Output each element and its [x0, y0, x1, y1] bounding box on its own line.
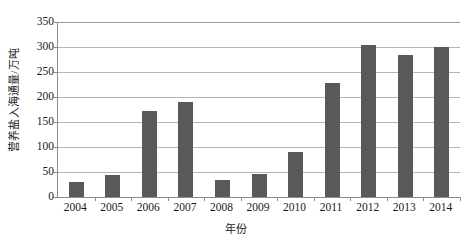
- bar-2013: [398, 55, 413, 197]
- x-tick-label: 2004: [64, 202, 87, 214]
- bars-layer: [58, 22, 460, 197]
- bar-chart-figure: 营养盐入海通量/万吨 050100150200250300350 2004200…: [0, 0, 472, 247]
- plot-area: [57, 22, 460, 198]
- y-tick-label: 250: [37, 66, 54, 78]
- y-tick-mark: [54, 47, 58, 48]
- x-tick-mark: [95, 197, 96, 201]
- x-axis-tick-labels: 2004200520062007200820092010201120122013…: [57, 202, 459, 218]
- y-tick-mark: [54, 72, 58, 73]
- x-tick-label: 2011: [320, 202, 343, 214]
- x-axis-title: 年份: [0, 220, 472, 236]
- x-tick-label: 2010: [283, 202, 306, 214]
- bar-2010: [288, 152, 303, 197]
- y-axis-title-label: 营养盐入海通量/万吨: [5, 48, 21, 152]
- bar-2008: [215, 180, 230, 197]
- bar-2014: [434, 47, 449, 198]
- bar-2009: [252, 174, 267, 198]
- x-tick-label: 2009: [247, 202, 270, 214]
- x-tick-label: 2013: [393, 202, 416, 214]
- x-tick-mark: [241, 197, 242, 201]
- x-tick-label: 2005: [100, 202, 123, 214]
- x-axis-title-label: 年份: [225, 223, 247, 235]
- bar-2011: [325, 83, 340, 197]
- x-tick-label: 2012: [356, 202, 379, 214]
- x-tick-label: 2008: [210, 202, 233, 214]
- y-tick-label: 200: [37, 91, 54, 103]
- x-tick-mark: [423, 197, 424, 201]
- y-tick-label: 50: [43, 166, 55, 178]
- bar-2004: [69, 182, 84, 198]
- y-tick-mark: [54, 122, 58, 123]
- y-tick-label: 150: [37, 116, 54, 128]
- y-axis-tick-labels: 050100150200250300350: [24, 16, 54, 203]
- x-tick-mark: [460, 197, 461, 201]
- x-tick-mark: [277, 197, 278, 201]
- x-tick-label: 2006: [137, 202, 160, 214]
- x-tick-mark: [387, 197, 388, 201]
- bar-2012: [361, 45, 376, 197]
- x-tick-label: 2007: [173, 202, 196, 214]
- x-tick-mark: [168, 197, 169, 201]
- y-tick-mark: [54, 147, 58, 148]
- y-tick-mark: [54, 197, 58, 198]
- bar-2007: [178, 102, 193, 197]
- y-tick-label: 300: [37, 41, 54, 53]
- x-tick-mark: [131, 197, 132, 201]
- x-tick-mark: [350, 197, 351, 201]
- x-tick-mark: [314, 197, 315, 201]
- x-tick-mark: [204, 197, 205, 201]
- y-tick-mark: [54, 172, 58, 173]
- y-tick-mark: [54, 22, 58, 23]
- y-tick-label: 100: [37, 141, 54, 153]
- y-axis-title: 营养盐入海通量/万吨: [0, 0, 26, 200]
- y-tick-mark: [54, 97, 58, 98]
- y-tick-label: 350: [37, 16, 54, 28]
- x-tick-label: 2014: [429, 202, 452, 214]
- bar-2006: [142, 111, 157, 198]
- bar-2005: [105, 175, 120, 198]
